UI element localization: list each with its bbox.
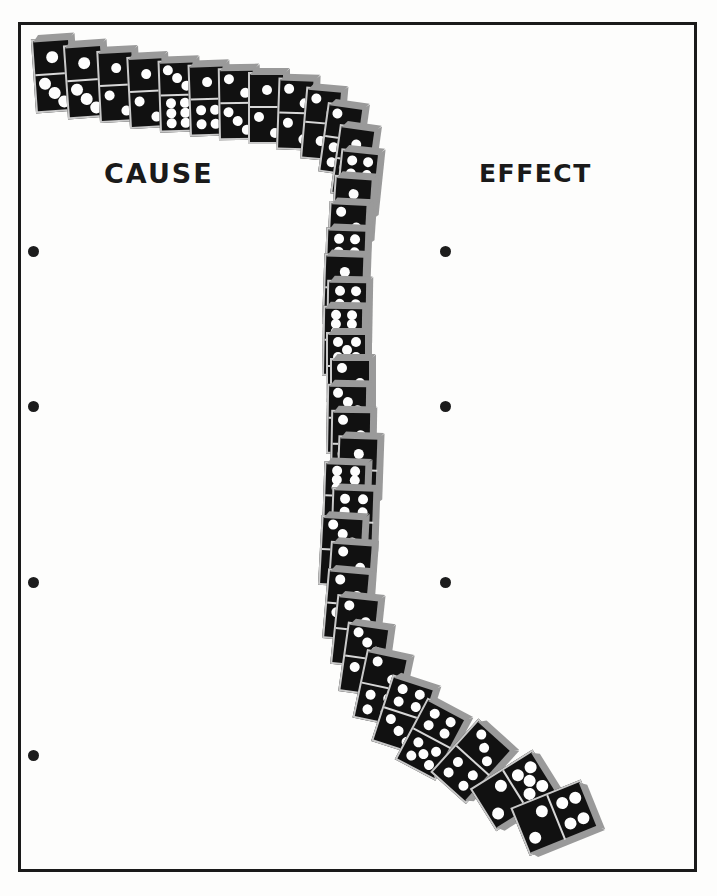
page-canvas: CAUSE EFFECT xyxy=(0,0,717,896)
page-border-frame xyxy=(18,22,697,872)
punch-hole-dot xyxy=(28,750,39,761)
punch-hole-dot xyxy=(440,246,451,257)
punch-hole-dot xyxy=(28,577,39,588)
punch-hole-dot xyxy=(440,401,451,412)
punch-hole-dot xyxy=(28,401,39,412)
punch-hole-dot xyxy=(440,730,451,741)
cause-label: CAUSE xyxy=(104,158,214,189)
effect-label: EFFECT xyxy=(479,159,592,188)
punch-hole-dot xyxy=(28,246,39,257)
punch-hole-dot xyxy=(440,577,451,588)
